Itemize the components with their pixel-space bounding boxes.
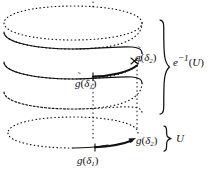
helix-turn1-back <box>4 6 142 23</box>
label-gtilde-delta1: ̃ g (δ1) <box>75 78 96 91</box>
helix-turn3-back <box>4 53 142 79</box>
helix-diagram-svg <box>0 0 216 174</box>
base-path-segment <box>95 141 132 148</box>
gtilde-delta2-function: g <box>135 51 141 63</box>
figure-canvas: ̃ g (δ2) ̃ g (δ1) g(δ2) g(δ1) e−1(U) U <box>0 0 216 174</box>
label-g-delta2: g(δ2) <box>136 135 157 148</box>
open-set-brace <box>164 126 171 151</box>
g-delta1-close-paren: ) <box>95 154 99 166</box>
einv-close-paren: ) <box>200 56 204 68</box>
g-delta2-close-paren: ) <box>154 134 158 146</box>
gtilde-delta1-close-paren: ) <box>93 77 97 89</box>
gtilde-delta2-accented-g: ̃ g <box>135 52 141 63</box>
label-g-delta1: g(δ1) <box>77 155 98 168</box>
helix-turn4-front <box>4 92 142 113</box>
gtilde-delta1-accented-g: ̃ g <box>75 78 81 89</box>
gtilde-delta2-close-paren: ) <box>153 51 157 63</box>
label-preimage-e-inverse-u: e−1(U) <box>173 54 204 68</box>
label-open-set-u: U <box>176 133 184 144</box>
preimage-brace <box>160 20 170 114</box>
einv-exponent: −1 <box>178 53 189 63</box>
helix-turn4-back <box>4 83 142 109</box>
base-circle-group <box>8 117 138 148</box>
base-circle-front-dotted <box>8 133 73 148</box>
base-circle-back <box>8 117 138 133</box>
lifted-path-segment <box>93 66 137 77</box>
projection-lines-group <box>93 2 137 140</box>
label-gtilde-delta2: ̃ g (δ2) <box>135 52 156 65</box>
helix-turn1-front <box>4 23 142 40</box>
helix-group <box>4 6 142 113</box>
gtilde-delta1-function: g <box>75 77 81 89</box>
